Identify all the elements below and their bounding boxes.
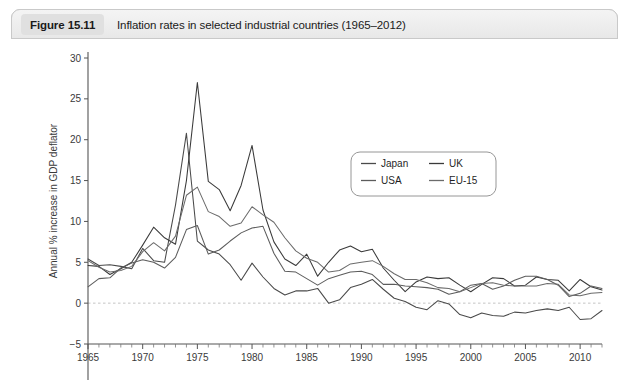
x-axis-tick-label: 1980 (241, 352, 264, 363)
x-axis-tick-label: 1995 (405, 352, 428, 363)
figure-caption-text: Inflation rates in selected industrial c… (117, 10, 406, 39)
y-axis-title: Annual % increase in GDP deflator (48, 123, 59, 278)
legend-background (351, 152, 496, 196)
y-axis-tick-label: 10 (70, 216, 82, 227)
x-axis-tick-label: 2010 (569, 352, 592, 363)
legend-label-japan: Japan (381, 158, 408, 169)
y-axis-tick-label: 30 (70, 53, 82, 64)
y-axis-tick-label: −5 (70, 339, 82, 350)
x-axis-tick-label: 1965 (77, 352, 100, 363)
y-axis-tick-label: 0 (75, 298, 81, 309)
inflation-line-chart: −505101520253019651970197519801985199019… (11, 39, 618, 380)
x-axis-tick-label: 1990 (350, 352, 373, 363)
series-line-eu-15 (88, 187, 602, 296)
x-axis-tick-label: 2000 (460, 352, 483, 363)
legend-label-usa: USA (381, 175, 402, 186)
chart-legend: JapanUKUSAEU-15 (351, 152, 496, 196)
legend-label-uk: UK (449, 158, 463, 169)
y-axis-tick-label: 5 (75, 257, 81, 268)
y-axis-tick-label: 20 (70, 134, 82, 145)
figure-number-badge: Figure 15.11 (21, 14, 104, 35)
figure-caption-bar: Figure 15.11 Inflation rates in selected… (11, 9, 618, 39)
x-axis-tick-label: 1975 (186, 352, 209, 363)
x-axis-tick-label: 1970 (132, 352, 155, 363)
chart-plot-area: −505101520253019651970197519801985199019… (11, 39, 618, 380)
legend-label-eu-15: EU-15 (449, 175, 478, 186)
y-axis-tick-label: 15 (70, 175, 82, 186)
y-axis-tick-label: 25 (70, 93, 82, 104)
figure-page: Figure 15.11 Inflation rates in selected… (0, 0, 631, 389)
x-axis-tick-label: 1985 (296, 352, 319, 363)
series-line-japan (88, 133, 602, 319)
x-axis-tick-label: 2005 (514, 352, 537, 363)
